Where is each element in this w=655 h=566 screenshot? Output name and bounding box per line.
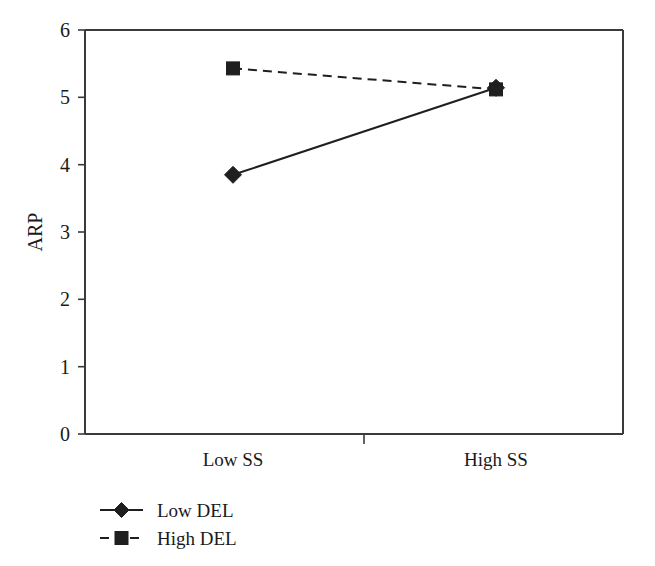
data-point-high-del-low-ss bbox=[227, 62, 240, 75]
series-line-high-del bbox=[233, 68, 496, 89]
y-axis-ticks bbox=[78, 30, 85, 434]
y-axis-title: ARP bbox=[24, 213, 46, 252]
y-tick-label-0: 0 bbox=[60, 423, 70, 445]
legend-label-low-del: Low DEL bbox=[157, 500, 234, 521]
chart-figure: 6 5 4 3 2 1 0 ARP Low SS High SS bbox=[0, 0, 655, 566]
legend-diamond-marker bbox=[114, 503, 129, 518]
y-tick-label-3: 3 bbox=[60, 221, 70, 243]
y-tick-label-6: 6 bbox=[60, 19, 70, 41]
y-tick-label-1: 1 bbox=[60, 356, 70, 378]
x-category-label-low-ss: Low SS bbox=[203, 449, 264, 470]
legend-square-marker bbox=[115, 532, 128, 545]
chart-legend: Low DEL High DEL bbox=[100, 500, 237, 549]
line-chart: 6 5 4 3 2 1 0 ARP Low SS High SS bbox=[0, 0, 655, 566]
legend-label-high-del: High DEL bbox=[157, 528, 237, 549]
legend-entry-high-del[interactable]: High DEL bbox=[100, 528, 237, 549]
x-category-label-high-ss: High SS bbox=[464, 449, 528, 470]
y-tick-label-5: 5 bbox=[60, 86, 70, 108]
y-axis-tick-labels: 6 5 4 3 2 1 0 bbox=[60, 19, 70, 445]
series-line-low-del bbox=[233, 88, 496, 175]
legend-entry-low-del[interactable]: Low DEL bbox=[100, 500, 234, 521]
y-tick-label-4: 4 bbox=[60, 154, 70, 176]
data-point-low-del-low-ss bbox=[225, 166, 242, 183]
y-tick-label-2: 2 bbox=[60, 288, 70, 310]
